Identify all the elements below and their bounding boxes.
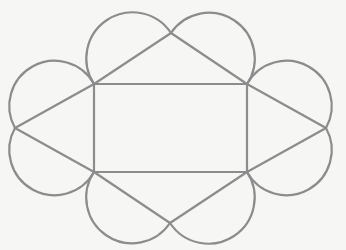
- semicircle-left-top: [9, 61, 94, 128]
- semicircle-right-top: [247, 61, 332, 128]
- semicircles-group: [9, 12, 331, 243]
- central-rectangle: [94, 84, 247, 172]
- semicircle-left-bottom: [9, 128, 94, 195]
- triangle-left: [15, 84, 94, 172]
- semicircle-right-bottom: [247, 128, 332, 195]
- geometric-figure: [0, 0, 346, 250]
- triangle-top: [94, 33, 247, 84]
- triangle-right: [247, 84, 326, 172]
- semicircle-top-right: [171, 13, 255, 84]
- semicircle-top-left: [86, 12, 171, 84]
- semicircle-bottom-left: [86, 172, 170, 243]
- semicircle-bottom-right: [170, 172, 255, 244]
- triangle-bottom: [94, 172, 247, 223]
- rectangle-group: [94, 84, 247, 172]
